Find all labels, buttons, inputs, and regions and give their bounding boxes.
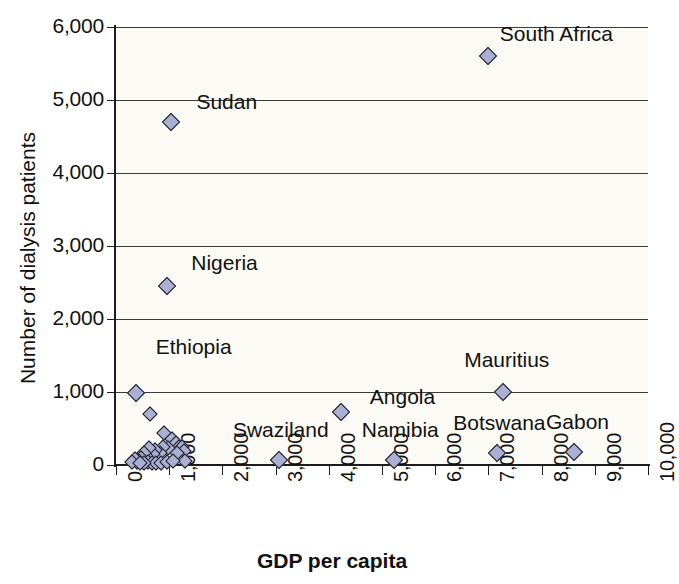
x-tick-mark xyxy=(222,465,223,475)
point-label-angola: Angola xyxy=(370,385,435,409)
y-tick-mark xyxy=(107,465,116,466)
y-tick-mark xyxy=(107,27,116,28)
point-label-gabon: Gabon xyxy=(546,410,609,434)
y-axis-title: Number of dialysis patients xyxy=(16,78,40,438)
point-label-nigeria: Nigeria xyxy=(191,251,258,275)
x-tick-label: 8,000 xyxy=(550,433,573,482)
x-tick-label: 10,000 xyxy=(656,422,679,482)
y-tick-label: 6,000 xyxy=(0,14,104,38)
x-axis-title: GDP per capita xyxy=(0,549,664,573)
point-label-ethiopia: Ethiopia xyxy=(156,335,232,359)
x-tick-label: 0 xyxy=(124,471,147,482)
x-tick-mark xyxy=(595,465,596,475)
point-label-namibia: Namibia xyxy=(362,418,439,442)
x-tick-label: 4,000 xyxy=(337,433,360,482)
x-tick-mark xyxy=(382,465,383,475)
x-tick-mark xyxy=(329,465,330,475)
point-label-sudan: Sudan xyxy=(196,90,257,114)
x-tick-mark xyxy=(488,465,489,475)
gridline xyxy=(116,173,648,174)
y-tick-label: 0 xyxy=(0,452,104,476)
y-tick-mark xyxy=(107,173,116,174)
y-tick-mark xyxy=(107,392,116,393)
x-tick-mark xyxy=(116,465,117,475)
y-tick-mark xyxy=(107,100,116,101)
x-tick-mark xyxy=(542,465,543,475)
y-tick-mark xyxy=(107,319,116,320)
x-tick-label: 6,000 xyxy=(443,433,466,482)
point-label-south-africa: South Africa xyxy=(500,22,613,46)
gridline xyxy=(116,319,648,320)
point-label-swaziland: Swaziland xyxy=(233,418,329,442)
x-tick-label: 9,000 xyxy=(603,433,626,482)
point-label-botswana: Botswana xyxy=(453,411,545,435)
x-tick-mark xyxy=(648,465,649,475)
x-tick-mark xyxy=(435,465,436,475)
point-label-mauritius: Mauritius xyxy=(464,348,549,372)
y-tick-mark xyxy=(107,246,116,247)
gridline xyxy=(116,246,648,247)
